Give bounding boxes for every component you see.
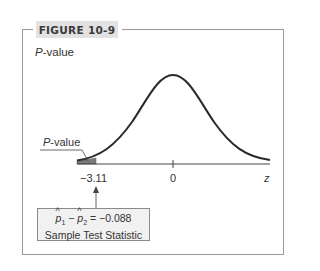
axis-label-z: z xyxy=(264,172,270,184)
stat-caption: Sample Test Statistic xyxy=(38,229,149,242)
p-hat-2: p xyxy=(77,212,83,224)
leader-rest: -value xyxy=(50,136,80,148)
tick-label-zero: 0 xyxy=(170,172,176,184)
stat-arrow-head xyxy=(93,186,99,193)
p-hat-1: p xyxy=(56,212,62,224)
minus: − xyxy=(65,212,77,224)
pvalue-leader-label: P-value xyxy=(43,136,80,148)
sample-test-statistic-box: p1 − p2 = −0.088 Sample Test Statistic xyxy=(37,208,150,241)
tick-label-neg-3-11: −3.11 xyxy=(80,172,107,184)
stat-formula: p1 − p2 = −0.088 xyxy=(38,212,149,229)
stat-value: = −0.088 xyxy=(87,212,131,224)
normal-curve xyxy=(77,75,270,161)
